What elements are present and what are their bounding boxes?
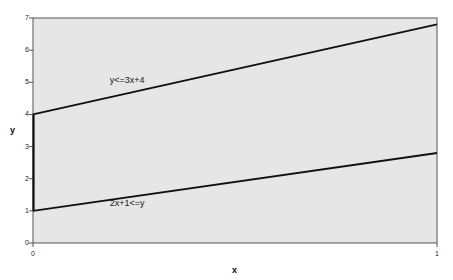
y-axis-tick-label: 5: [20, 78, 29, 85]
y-axis-title: y: [10, 126, 15, 135]
y-axis-tick-label: 6: [20, 46, 29, 53]
y-axis-tick-label: 7: [20, 14, 29, 21]
x-axis-ticks: [33, 243, 437, 247]
series-annotation-1: y<=3x+4: [110, 76, 145, 85]
x-axis-tick-label: 1: [432, 250, 442, 257]
y-axis-tick-label: 3: [20, 143, 29, 150]
series-annotation-2: 2x+1<=y: [110, 199, 145, 208]
plot-canvas: [0, 0, 453, 280]
y-axis-tick-label: 0: [20, 239, 29, 246]
chart-figure: 01234567 01 y x y<=3x+42x+1<=y: [0, 0, 453, 280]
y-axis-tick-label: 2: [20, 175, 29, 182]
plot-area-background: [33, 18, 437, 243]
x-axis-tick-label: 0: [28, 250, 38, 257]
y-axis-tick-label: 4: [20, 110, 29, 117]
y-axis-tick-label: 1: [20, 207, 29, 214]
x-axis-title: x: [232, 266, 237, 275]
